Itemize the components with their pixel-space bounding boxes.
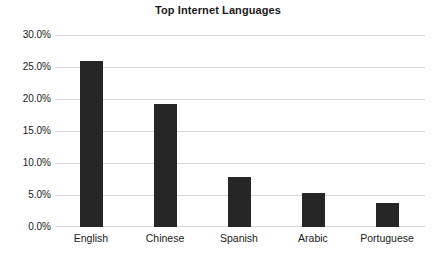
y-axis: 30.0% 25.0% 20.0% 15.0% 10.0% 5.0% 0.0% [0, 35, 51, 227]
bar-portuguese[interactable] [376, 203, 399, 227]
bar-spanish[interactable] [228, 177, 251, 227]
y-axis-tick-label: 10.0% [3, 158, 51, 168]
y-axis-tick-label: 30.0% [3, 30, 51, 40]
chart-title: Top Internet Languages [0, 3, 436, 17]
y-axis-tick-label: 5.0% [3, 190, 51, 200]
y-axis-tick-label: 0.0% [3, 222, 51, 232]
y-axis-tick-label: 25.0% [3, 62, 51, 72]
bar-arabic[interactable] [302, 193, 325, 227]
x-axis: English Chinese Spanish Arabic Portugues… [55, 232, 425, 248]
x-axis-tick-label: Portuguese [342, 232, 432, 245]
bar-chart: Top Internet Languages 30.0% 25.0% 20.0%… [0, 0, 436, 275]
y-axis-tick-label: 20.0% [3, 94, 51, 104]
bar-english[interactable] [80, 61, 103, 227]
y-axis-tick-label: 15.0% [3, 126, 51, 136]
bars-layer [55, 35, 425, 227]
bar-chinese[interactable] [154, 104, 177, 228]
plot-area [55, 35, 425, 227]
